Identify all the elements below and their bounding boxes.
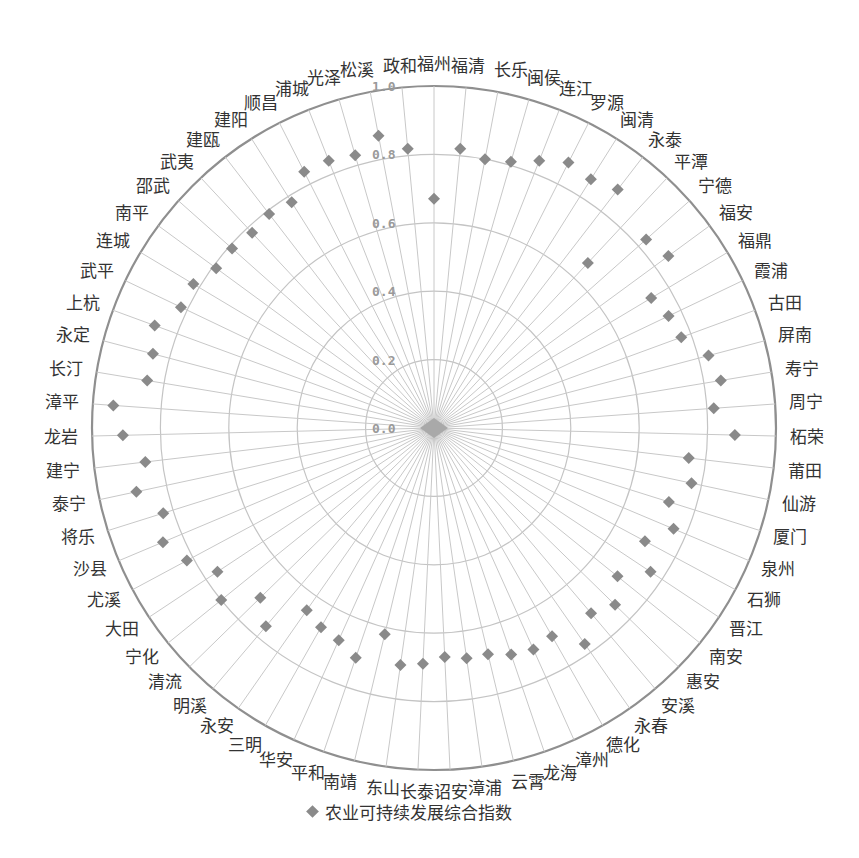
- data-point-diamond: [350, 652, 362, 664]
- data-point-diamond: [715, 375, 727, 387]
- data-point-diamond: [107, 399, 119, 411]
- data-point-diamond: [662, 250, 674, 262]
- category-label: 明溪: [173, 696, 207, 716]
- data-point-diamond: [157, 536, 169, 548]
- category-label: 顺昌: [244, 93, 278, 113]
- category-label: 平潭: [674, 152, 708, 172]
- data-point-diamond: [298, 166, 310, 178]
- category-label: 清流: [148, 672, 182, 692]
- category-label: 云霄: [511, 772, 545, 792]
- category-label: 长乐: [494, 60, 528, 80]
- radar-chart: 0.00.20.40.60.81.0 福州福清长乐闽侯连江罗源闽清永泰平潭宁德福…: [0, 0, 859, 858]
- category-label: 平和: [291, 763, 325, 783]
- category-label: 福清: [451, 56, 485, 76]
- category-label: 建瓯: [186, 130, 220, 150]
- category-label: 武夷: [160, 152, 194, 172]
- category-label: 福鼎: [738, 231, 772, 251]
- data-point-diamond: [301, 604, 313, 616]
- category-label: 龙海: [543, 763, 577, 783]
- category-label: 政和: [383, 56, 417, 76]
- category-label: 福州: [417, 54, 451, 74]
- diamond-marker-icon: [306, 805, 319, 818]
- category-label: 宁化: [125, 647, 159, 667]
- data-point-diamond: [708, 402, 720, 414]
- category-label: 东山: [366, 778, 400, 798]
- data-point-diamond: [675, 331, 687, 343]
- spoke-line: [100, 428, 434, 500]
- category-label: 武平: [80, 261, 114, 281]
- data-point-diamond: [157, 507, 169, 519]
- spoke-line: [434, 404, 775, 428]
- data-point-diamond: [454, 143, 466, 155]
- category-label: 光泽: [307, 68, 341, 88]
- data-point-diamond: [428, 193, 440, 205]
- radial-tick-label: 0.4: [372, 284, 396, 299]
- data-point-diamond: [323, 155, 335, 167]
- spoke-line: [434, 178, 667, 428]
- category-label: 浦城: [275, 79, 309, 99]
- data-point-diamond: [181, 555, 193, 567]
- data-point-diamond: [668, 523, 680, 535]
- category-label: 安溪: [661, 696, 695, 716]
- data-point-diamond: [612, 184, 624, 196]
- category-label: 莆田: [788, 461, 822, 481]
- category-label: 连江: [559, 79, 593, 99]
- data-points: [107, 130, 741, 671]
- category-label: 建宁: [46, 461, 80, 481]
- category-label: 古田: [768, 293, 802, 313]
- data-point-diamond: [729, 429, 741, 441]
- data-point-diamond: [210, 262, 222, 274]
- category-label: 长汀: [49, 359, 83, 379]
- data-point-diamond: [349, 149, 361, 161]
- category-label: 永定: [56, 325, 90, 345]
- data-point-diamond: [417, 658, 429, 670]
- spoke-line: [434, 428, 679, 667]
- data-point-diamond: [479, 153, 491, 165]
- category-label: 厦门: [773, 527, 807, 547]
- spoke-line: [434, 428, 544, 752]
- spoke-line: [402, 88, 434, 428]
- category-label: 南靖: [323, 772, 357, 792]
- radial-axis-ticks: 0.00.20.40.60.81.0: [372, 79, 448, 438]
- radial-tick-label: 0.2: [372, 353, 395, 368]
- spoke-line: [225, 157, 434, 428]
- spoke-line: [434, 428, 749, 561]
- radial-tick-label: 1.0: [372, 79, 396, 94]
- legend: 农业可持续发展综合指数: [308, 799, 512, 824]
- radial-tick-label: 0.6: [372, 216, 396, 231]
- category-label: 三明: [228, 735, 262, 755]
- category-label: 柘荣: [790, 427, 824, 447]
- spoke-line: [434, 428, 655, 689]
- data-point-diamond: [482, 648, 494, 660]
- legend-label: 农业可持续发展综合指数: [325, 799, 512, 824]
- category-label: 龙岩: [44, 427, 78, 447]
- category-label: 华安: [259, 750, 293, 770]
- category-label: 永泰: [648, 130, 682, 150]
- category-label: 尤溪: [87, 590, 121, 610]
- category-label: 邵武: [136, 176, 170, 196]
- data-point-diamond: [315, 621, 327, 633]
- spoke-line: [434, 157, 643, 428]
- data-point-diamond: [505, 649, 517, 661]
- category-label: 寿宁: [785, 359, 819, 379]
- category-label: 泉州: [761, 559, 795, 579]
- spoke-line: [434, 88, 466, 428]
- category-label: 南平: [115, 203, 149, 223]
- category-label: 漳州: [575, 750, 609, 770]
- category-label: 闽清: [620, 110, 654, 130]
- spoke-line: [324, 428, 434, 752]
- data-point-diamond: [149, 320, 161, 332]
- data-point-diamond: [639, 535, 651, 547]
- data-point-diamond: [130, 486, 142, 498]
- data-point-diamond: [612, 570, 624, 582]
- radial-tick-label: 0.8: [372, 147, 396, 162]
- category-label: 漳平: [45, 392, 79, 412]
- category-label: 漳浦: [468, 778, 502, 798]
- data-point-diamond: [394, 659, 406, 671]
- data-point-diamond: [562, 157, 574, 169]
- data-point-diamond: [585, 173, 597, 185]
- data-point-diamond: [683, 452, 695, 464]
- spoke-line: [189, 428, 434, 667]
- data-point-diamond: [461, 652, 473, 664]
- data-point-diamond: [141, 375, 153, 387]
